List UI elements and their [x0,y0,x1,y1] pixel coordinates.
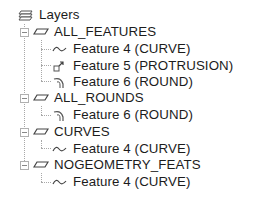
tree-connector [41,182,51,183]
feature-label: Feature 5 (PROTRUSION) [73,57,233,74]
tree-item-feature[interactable]: Feature 6 (ROUND) [52,73,193,90]
layer-icon [33,91,49,105]
tree-item-feature[interactable]: Feature 5 (PROTRUSION) [52,57,233,74]
feature-label: Feature 4 (CURVE) [73,140,190,157]
layer-icon [33,25,49,39]
curve-icon [52,142,68,156]
tree-connector [41,49,51,50]
tree-connector [41,140,42,148]
tree-connector [41,40,42,81]
layer-icon [33,158,49,172]
collapse-toggle[interactable] [20,94,29,103]
layers-icon [18,8,34,22]
protrusion-icon [52,59,68,73]
tree-connector [41,173,42,182]
layer-icon [33,125,49,139]
feature-label: Feature 4 (CURVE) [73,40,190,57]
curve-icon [52,42,68,56]
tree-layer-nogeometry-feats[interactable]: NOGEOMETRY_FEATS [33,156,201,173]
tree-connector [41,106,42,115]
tree-connector [41,81,51,82]
tree-layer-curves[interactable]: CURVES [33,123,110,140]
layer-label: ALL_ROUNDS [54,89,144,106]
collapse-toggle[interactable] [20,28,29,37]
layer-label: CURVES [54,123,110,140]
layer-label: ALL_FEATURES [54,23,156,40]
tree-connector [41,65,51,66]
layer-label: NOGEOMETRY_FEATS [54,156,201,173]
round-icon [52,75,68,89]
collapse-toggle[interactable] [20,128,29,137]
tree-item-feature[interactable]: Feature 4 (CURVE) [52,140,190,157]
tree-item-feature[interactable]: Feature 4 (CURVE) [52,40,190,57]
tree-connector [41,148,51,149]
curve-icon [52,175,68,189]
round-icon [52,108,68,122]
tree-item-feature[interactable]: Feature 4 (CURVE) [52,173,190,190]
collapse-toggle[interactable] [20,161,29,170]
feature-label: Feature 6 (ROUND) [73,106,193,123]
tree-root-label: Layers [39,6,80,23]
tree-connector [41,115,51,116]
tree-layer-all-rounds[interactable]: ALL_ROUNDS [33,89,144,106]
feature-label: Feature 6 (ROUND) [73,73,193,90]
tree-root-layers[interactable]: Layers [18,6,80,23]
tree-item-feature[interactable]: Feature 6 (ROUND) [52,106,193,123]
feature-label: Feature 4 (CURVE) [73,173,190,190]
tree-layer-all-features[interactable]: ALL_FEATURES [33,23,156,40]
